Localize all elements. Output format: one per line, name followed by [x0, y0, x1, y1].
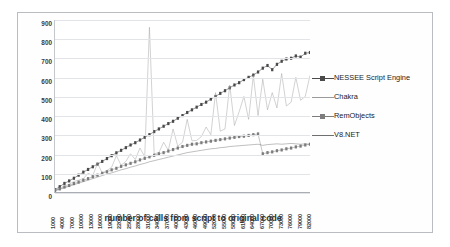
data-point-marker — [134, 160, 136, 163]
y-axis-tick-label: 900 — [30, 19, 52, 28]
chart-legend: NESSEE Script EngineChakraRemObjectsV8.N… — [312, 73, 428, 149]
data-point-marker — [73, 177, 75, 180]
data-point-marker — [120, 149, 122, 152]
data-point-marker — [210, 140, 212, 143]
y-axis-tick-label: 500 — [30, 95, 52, 104]
data-point-marker — [281, 148, 283, 151]
legend-key-icon — [312, 74, 334, 83]
gridline — [55, 174, 310, 175]
data-point-marker — [224, 137, 226, 140]
legend-item-nessee-script-engine[interactable]: NESSEE Script Engine — [312, 73, 428, 83]
legend-key-icon — [312, 131, 334, 140]
series-svg — [55, 20, 310, 192]
data-point-marker — [134, 141, 136, 144]
data-point-marker — [200, 103, 202, 106]
data-point-marker — [167, 150, 169, 153]
legend-item-remobjects[interactable]: RemObjects — [312, 111, 428, 121]
data-point-marker — [219, 92, 221, 95]
data-point-marker — [205, 101, 207, 104]
data-point-marker — [177, 117, 179, 120]
data-point-marker — [63, 182, 65, 185]
data-point-marker — [139, 158, 141, 161]
data-point-marker — [281, 60, 283, 63]
y-axis-tick-label: 300 — [30, 134, 52, 143]
data-point-marker — [295, 145, 297, 148]
data-point-marker — [196, 142, 198, 145]
legend-label: V8.NET — [334, 130, 360, 140]
legend-item-chakra[interactable]: Chakra — [312, 92, 428, 102]
data-point-marker — [200, 141, 202, 144]
chart-figure: time in ms 0100200300400500600700800900 … — [17, 12, 433, 233]
data-point-marker — [304, 52, 306, 55]
data-point-marker — [257, 70, 259, 73]
data-point-marker — [115, 167, 117, 170]
data-point-marker — [172, 120, 174, 123]
data-point-marker — [238, 81, 240, 84]
x-axis-title: number of calls from script to original … — [54, 213, 332, 227]
chart-plot-wrapper: time in ms 0100200300400500600700800900 … — [18, 13, 432, 232]
data-point-marker — [186, 111, 188, 114]
data-point-marker — [205, 140, 207, 143]
data-point-marker — [285, 147, 287, 150]
y-axis-tick-label: 400 — [30, 115, 52, 124]
data-point-marker — [87, 168, 89, 171]
gridline — [55, 116, 310, 117]
data-point-marker — [68, 179, 70, 182]
data-point-marker — [177, 146, 179, 149]
y-axis-tick-label: 100 — [30, 172, 52, 181]
data-point-marker — [129, 162, 131, 165]
legend-key-icon — [312, 112, 334, 121]
data-point-marker — [92, 175, 94, 178]
y-axis-tick-label: 800 — [30, 38, 52, 47]
data-point-marker — [191, 143, 193, 146]
data-point-marker — [214, 139, 216, 142]
data-point-marker — [167, 122, 169, 125]
data-point-marker — [290, 146, 292, 149]
y-axis-tick-label: 600 — [30, 76, 52, 85]
data-point-marker — [181, 145, 183, 148]
legend-label: RemObjects — [334, 111, 375, 121]
data-point-marker — [129, 143, 131, 146]
data-point-marker — [139, 138, 141, 141]
data-point-marker — [186, 144, 188, 147]
gridline — [55, 39, 310, 40]
legend-key-icon — [312, 93, 334, 102]
data-point-marker — [210, 98, 212, 101]
y-axis-tick-label: 700 — [30, 57, 52, 66]
y-axis-tick-labels: 0100200300400500600700800900 — [30, 16, 52, 196]
gridline — [55, 58, 310, 59]
data-point-marker — [266, 64, 268, 67]
legend-item-v8-net[interactable]: V8.NET — [312, 130, 428, 140]
data-point-marker — [219, 138, 221, 141]
data-point-marker — [233, 83, 235, 86]
data-point-marker — [111, 168, 113, 171]
y-axis-tick-label: 200 — [30, 153, 52, 162]
data-point-marker — [271, 68, 273, 71]
data-point-marker — [271, 150, 273, 153]
data-point-marker — [299, 145, 301, 148]
legend-label: NESSEE Script Engine — [334, 73, 410, 83]
data-point-marker — [120, 165, 122, 168]
data-point-marker — [92, 165, 94, 168]
data-point-marker — [309, 51, 310, 54]
gridline — [55, 155, 310, 156]
data-point-marker — [162, 125, 164, 128]
data-point-marker — [276, 63, 278, 66]
gridline — [55, 135, 310, 136]
data-point-marker — [224, 89, 226, 92]
data-point-marker — [262, 67, 264, 70]
data-point-marker — [196, 106, 198, 109]
data-point-marker — [172, 148, 174, 151]
data-point-marker — [125, 146, 127, 149]
gridline — [55, 193, 310, 194]
data-point-marker — [125, 163, 127, 166]
data-point-marker — [158, 127, 160, 130]
y-axis-tick-label: 0 — [30, 192, 52, 201]
data-point-marker — [276, 149, 278, 152]
data-point-marker — [229, 137, 231, 140]
legend-label: Chakra — [334, 92, 358, 102]
gridline — [55, 97, 310, 98]
data-point-marker — [148, 155, 150, 158]
data-point-marker — [144, 157, 146, 160]
gridline — [55, 78, 310, 79]
